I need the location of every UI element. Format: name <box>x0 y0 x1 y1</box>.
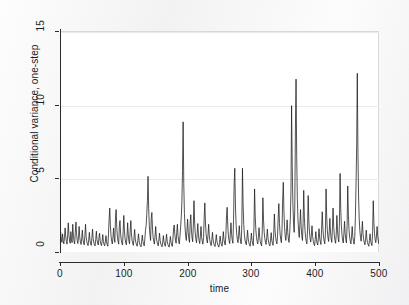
plot-svg <box>60 32 379 253</box>
y-tick-label-wrap-0: 0 <box>29 245 51 259</box>
figure-canvas: 051015 0100200300400500 Conditional vari… <box>0 0 409 305</box>
x-tick-mark-200 <box>188 262 189 266</box>
x-tick-mark-500 <box>379 262 380 266</box>
x-tick-label-400: 400 <box>295 268 335 279</box>
x-tick-label-100: 100 <box>104 268 144 279</box>
x-tick-label-200: 200 <box>168 268 208 279</box>
x-tick-mark-0 <box>60 262 61 266</box>
y-tick-mark-0 <box>55 252 59 253</box>
y-tick-mark-5 <box>55 178 59 179</box>
x-tick-mark-400 <box>315 262 316 266</box>
x-axis-line <box>59 262 380 263</box>
y-tick-mark-10 <box>55 105 59 106</box>
data-series-line <box>61 73 379 247</box>
plot-area <box>60 31 379 252</box>
x-tick-label-0: 0 <box>40 268 80 279</box>
x-tick-label-500: 500 <box>359 268 399 279</box>
x-axis-title: time <box>60 283 379 294</box>
y-axis-line <box>60 29 61 253</box>
y-axis-title: Conditional variance, one-step <box>29 14 40 214</box>
y-tick-mark-15 <box>55 31 59 32</box>
x-tick-label-300: 300 <box>231 268 271 279</box>
x-tick-mark-300 <box>251 262 252 266</box>
gridlines <box>60 33 379 180</box>
y-tick-label-0: 0 <box>35 241 46 263</box>
x-tick-mark-100 <box>124 262 125 266</box>
